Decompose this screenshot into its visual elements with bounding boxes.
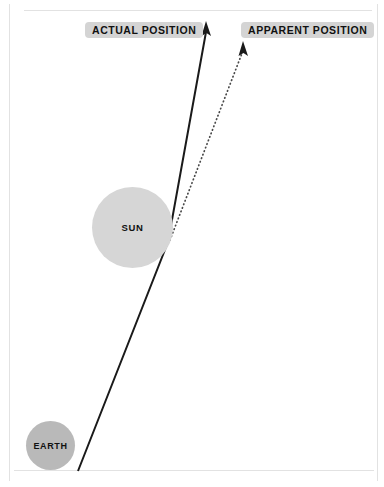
gravitational-lensing-diagram: ACTUAL POSITION APPARENT POSITION SUN EA…: [0, 0, 384, 487]
light-path-svg: [0, 0, 384, 487]
earth-body: EARTH: [26, 421, 75, 470]
sun-body: SUN: [92, 187, 173, 268]
sun-label: SUN: [122, 222, 144, 233]
apparent-position-label: APPARENT POSITION: [241, 22, 374, 38]
actual-position-label: ACTUAL POSITION: [85, 22, 203, 38]
earth-label: EARTH: [34, 441, 68, 451]
apparent-light-path: [170, 52, 243, 240]
apparent-light-path-arrowhead: [239, 41, 249, 56]
